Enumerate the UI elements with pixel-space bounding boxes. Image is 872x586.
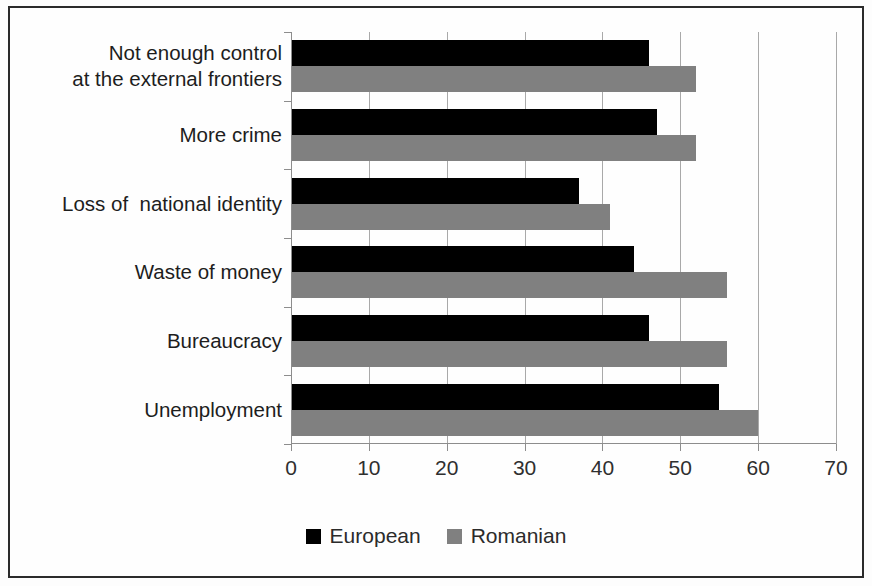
x-axis-tick-label: 30 bbox=[513, 456, 536, 480]
y-axis-tick bbox=[284, 169, 291, 170]
x-axis-tick bbox=[447, 444, 448, 451]
legend-swatch-icon bbox=[447, 529, 462, 544]
x-axis-tick bbox=[525, 444, 526, 451]
x-axis-tick bbox=[602, 444, 603, 451]
y-axis-tick bbox=[284, 32, 291, 33]
category-label: Waste of money bbox=[135, 259, 282, 285]
x-axis-tick-labels: 010203040506070 bbox=[291, 444, 836, 484]
y-axis-tick bbox=[284, 307, 291, 308]
category-label: More crime bbox=[179, 122, 282, 148]
x-axis-tick bbox=[836, 444, 837, 451]
legend-swatch-icon bbox=[306, 529, 321, 544]
x-axis-tick-label: 50 bbox=[669, 456, 692, 480]
legend-label: Romanian bbox=[471, 524, 567, 548]
x-axis-tick-label: 20 bbox=[435, 456, 458, 480]
gridline-70 bbox=[836, 32, 837, 444]
x-axis-tick-label: 40 bbox=[591, 456, 614, 480]
y-axis-tick bbox=[284, 101, 291, 102]
chart-legend: EuropeanRomanian bbox=[10, 524, 862, 548]
category-label: Not enough control at the external front… bbox=[72, 40, 282, 92]
x-axis-tick-label: 70 bbox=[824, 456, 847, 480]
x-axis-tick bbox=[680, 444, 681, 451]
legend-label: European bbox=[330, 524, 421, 548]
legend-item-romanian: Romanian bbox=[447, 524, 567, 548]
legend-item-european: European bbox=[306, 524, 421, 548]
x-axis-tick bbox=[369, 444, 370, 451]
screenshot-root: Not enough control at the external front… bbox=[0, 0, 872, 586]
bar-chart: Not enough control at the external front… bbox=[10, 8, 862, 576]
y-axis-tick bbox=[284, 444, 291, 445]
x-axis-tick bbox=[758, 444, 759, 451]
category-label: Bureaucracy bbox=[167, 328, 282, 354]
category-axis-labels: Not enough control at the external front… bbox=[24, 32, 282, 444]
category-label: Loss of national identity bbox=[62, 191, 282, 217]
x-axis-tick-label: 10 bbox=[357, 456, 380, 480]
category-label: Unemployment bbox=[144, 397, 282, 423]
chart-figure-frame: Not enough control at the external front… bbox=[8, 6, 864, 578]
y-axis-ticks bbox=[291, 32, 836, 444]
plot-area bbox=[291, 32, 836, 444]
x-axis-tick bbox=[291, 444, 292, 451]
y-axis-tick bbox=[284, 238, 291, 239]
x-axis-tick-label: 0 bbox=[285, 456, 297, 480]
x-axis-tick-label: 60 bbox=[746, 456, 769, 480]
y-axis-tick bbox=[284, 375, 291, 376]
